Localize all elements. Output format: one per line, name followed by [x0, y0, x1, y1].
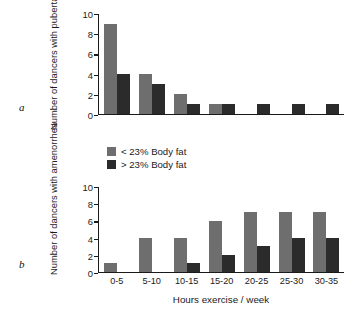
x-axis-line-a	[98, 114, 344, 115]
x-axis-labels-b: 0-55-1010-1515-2020-2525-3030-35	[99, 276, 344, 286]
bar-group	[239, 187, 274, 272]
bar	[117, 74, 130, 114]
bar-group	[239, 14, 274, 114]
bar	[257, 246, 270, 271]
bar-groups-a	[99, 14, 344, 114]
bar	[279, 212, 292, 271]
x-axis-title: Hours exercise / week	[98, 294, 344, 305]
plot-area-a: 1086420	[98, 14, 344, 115]
bar	[152, 84, 165, 114]
chart-panel-a: Number of dancers with pubertal progress…	[48, 8, 348, 136]
bar	[139, 74, 152, 114]
y-tick-mark	[94, 75, 98, 76]
y-tick-mark	[94, 54, 98, 55]
bar-group	[204, 14, 239, 114]
bar-group	[274, 14, 309, 114]
bar	[313, 212, 326, 271]
legend-label-light: < 23% Body fat	[121, 146, 186, 157]
y-tick-label: 2	[88, 250, 93, 261]
y-tick-mark	[94, 239, 98, 240]
legend-swatch-icon-light	[107, 147, 116, 156]
panel-label-a: a	[19, 101, 25, 113]
x-axis-line-b	[98, 272, 344, 273]
bar	[104, 263, 117, 271]
bar	[139, 238, 152, 272]
bar	[209, 104, 222, 114]
y-tick-label: 2	[88, 89, 93, 100]
y-tick-label: 6	[88, 216, 93, 227]
bar	[292, 238, 305, 272]
bar	[257, 104, 270, 114]
y-tick-label: 8	[88, 29, 93, 40]
bar	[222, 104, 235, 114]
x-axis-label: 0-5	[99, 276, 134, 286]
x-axis-label: 30-35	[309, 276, 344, 286]
bar-groups-b	[99, 187, 344, 272]
bar	[244, 212, 257, 271]
y-axis-title-a: Number of dancers with pubertal progress…	[48, 16, 59, 130]
x-axis-label: 20-25	[239, 276, 274, 286]
bar	[174, 238, 187, 272]
bar	[209, 221, 222, 272]
y-tick-mark	[94, 95, 98, 96]
bar	[187, 104, 200, 114]
x-axis-label: 10-15	[169, 276, 204, 286]
y-axis-title-b: Number of dancers with amenorrhea	[48, 171, 59, 275]
y-tick-mark	[94, 256, 98, 257]
bar-group	[309, 14, 344, 114]
bar	[326, 238, 339, 272]
y-tick-mark	[94, 187, 98, 188]
y-tick-label: 4	[88, 69, 93, 80]
y-tick-label: 4	[88, 233, 93, 244]
x-axis-label: 15-20	[204, 276, 239, 286]
bar-group	[309, 187, 344, 272]
bar-group	[169, 187, 204, 272]
bar-group	[134, 187, 169, 272]
x-axis-label: 5-10	[134, 276, 169, 286]
y-tick-mark	[94, 14, 98, 15]
bar	[187, 263, 200, 271]
bar	[292, 104, 305, 114]
y-tick-label: 8	[88, 199, 93, 210]
y-tick-mark	[94, 34, 98, 35]
chart-panel-b: Number of dancers with amenorrhea 108642…	[48, 163, 348, 288]
bar-group	[274, 187, 309, 272]
y-tick-mark	[94, 115, 98, 116]
bar-group	[169, 14, 204, 114]
figure-root: a b Number of dancers with pubertal prog…	[0, 0, 359, 314]
y-tick-label: 6	[88, 49, 93, 60]
y-tick-mark	[94, 221, 98, 222]
y-tick-label: 10	[83, 9, 93, 20]
y-tick-label: 0	[88, 110, 93, 121]
y-tick-label: 10	[83, 182, 93, 193]
bar-group	[99, 187, 134, 272]
x-axis-label: 25-30	[274, 276, 309, 286]
bar	[222, 255, 235, 272]
bar	[326, 104, 339, 114]
bar-group	[134, 14, 169, 114]
legend-item-light: < 23% Body fat	[107, 145, 186, 158]
y-tick-mark	[94, 204, 98, 205]
y-tick-label: 0	[88, 268, 93, 279]
y-tick-mark	[94, 273, 98, 274]
bar-group	[99, 14, 134, 114]
panel-label-b: b	[19, 258, 25, 270]
bar	[104, 24, 117, 114]
bar-group	[204, 187, 239, 272]
bar	[174, 94, 187, 114]
plot-area-b: 1086420 0-55-1010-1515-2020-2525-3030-35	[98, 187, 344, 273]
